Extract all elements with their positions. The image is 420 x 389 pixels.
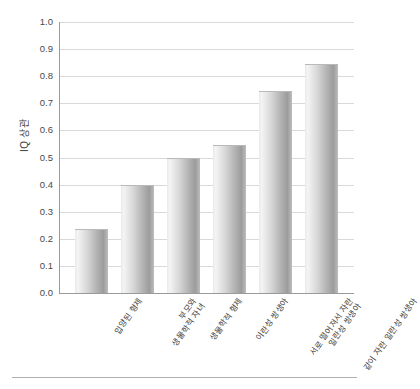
x-axis-tick-label: 부모와 생물학적 자녀 [162, 296, 208, 349]
bar [259, 91, 292, 293]
bar [75, 229, 108, 293]
y-axis-tick-label: 0.2 [23, 234, 53, 244]
x-axis-tick-label: 서로 떨어져서 자란 일란성 쌍생아 [308, 296, 364, 364]
footer-divider [12, 377, 357, 378]
bar-series [60, 22, 353, 293]
y-axis-label: IQ 상관 [16, 101, 31, 171]
y-axis-tick-label: 0.1 [23, 261, 53, 271]
y-axis-tick-label: 0.4 [23, 180, 53, 190]
y-axis-tick-label: 0.9 [23, 44, 53, 54]
bar [167, 158, 200, 294]
bar [305, 64, 338, 293]
x-axis-labels: 입양된 형제 부모와 생물학적 자녀 생물학적 형제 이란성 쌍생아 서로 떨어… [0, 296, 369, 376]
x-axis-tick-label: 같이 자란 일란성 쌍생아 [362, 296, 420, 373]
y-axis-tick-label: 0.8 [23, 71, 53, 81]
y-axis-tick-label: 1.0 [23, 17, 53, 27]
bar [121, 185, 154, 293]
x-axis-tick-label: 입양된 형제 [113, 296, 146, 337]
bar [213, 145, 246, 293]
x-axis-tick-label: 이란성 쌍생아 [254, 296, 291, 343]
x-axis-tick-label: 생물학적 형제 [208, 296, 245, 343]
y-axis-tick-label: 0.3 [23, 207, 53, 217]
